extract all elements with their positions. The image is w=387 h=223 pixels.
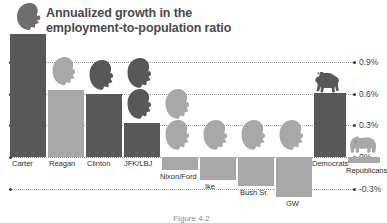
bar-jfk-lbj[interactable] bbox=[124, 123, 160, 157]
figure-caption: Figure 4-2 bbox=[0, 214, 383, 223]
axis-tick-label-0.6: 0.6% bbox=[359, 89, 378, 99]
elephant-icon bbox=[348, 135, 380, 157]
gridline-dot-left-neg0.3 bbox=[9, 188, 12, 191]
bar-carter[interactable] bbox=[10, 34, 46, 157]
head-silhouette-icon-reagan bbox=[50, 56, 80, 90]
head-silhouette-icon-lbj bbox=[125, 88, 156, 124]
bar-label-reagan: Reagan bbox=[49, 159, 75, 168]
bar-label-carter: Carter bbox=[12, 159, 33, 168]
head-silhouette-icon-ike bbox=[201, 119, 232, 155]
bar-label-democrats: Democrats bbox=[312, 159, 348, 168]
gridline-dot-right-0.6 bbox=[353, 93, 356, 96]
head-silhouette-icon-clinton bbox=[87, 59, 118, 95]
bar-reagan[interactable] bbox=[48, 90, 84, 157]
head-silhouette-icon-bush-sr bbox=[239, 119, 270, 155]
bar-nixon-ford[interactable] bbox=[162, 157, 198, 170]
axis-tick-label-0.3: 0.3% bbox=[359, 120, 378, 130]
bar-bush-sr[interactable] bbox=[238, 157, 274, 186]
bar-label-gw: GW bbox=[286, 199, 299, 208]
bar-clinton[interactable] bbox=[86, 94, 122, 157]
head-silhouette-icon-gw bbox=[277, 119, 308, 155]
axis-tick-label-0.9: 0.9% bbox=[359, 57, 378, 67]
bar-label-republicans: Republicans bbox=[346, 166, 387, 175]
head-silhouette-icon-ford bbox=[163, 119, 194, 155]
gridline-dot-right-0.3 bbox=[353, 124, 356, 127]
bar-ike[interactable] bbox=[200, 157, 236, 180]
bar-label-nixon-ford: Nixon/Ford bbox=[160, 172, 197, 181]
gridline-dot-right-0.9 bbox=[353, 61, 356, 64]
bar-gw[interactable] bbox=[276, 157, 312, 197]
bar-label-jfk-lbj: JFK/LBJ bbox=[124, 159, 152, 168]
bar-democrats[interactable] bbox=[314, 93, 346, 157]
bar-label-ike: Ike bbox=[205, 182, 215, 191]
bar-label-clinton: Clinton bbox=[87, 159, 110, 168]
donkey-icon bbox=[314, 72, 346, 94]
bar-republicans[interactable] bbox=[348, 157, 380, 163]
axis-tick-label-neg0.3: -0.3% bbox=[359, 184, 381, 194]
gridline-dot-right-neg0.3 bbox=[353, 188, 356, 191]
bar-label-bush-sr: Bush Sr. bbox=[240, 188, 268, 197]
